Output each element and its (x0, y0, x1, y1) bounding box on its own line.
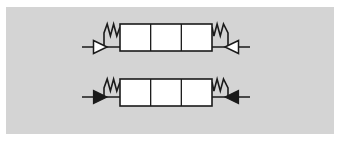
figure-root (0, 0, 346, 141)
spring-force-diagram (0, 0, 346, 141)
body-box-top (120, 24, 212, 51)
body-box-bottom (120, 79, 212, 106)
